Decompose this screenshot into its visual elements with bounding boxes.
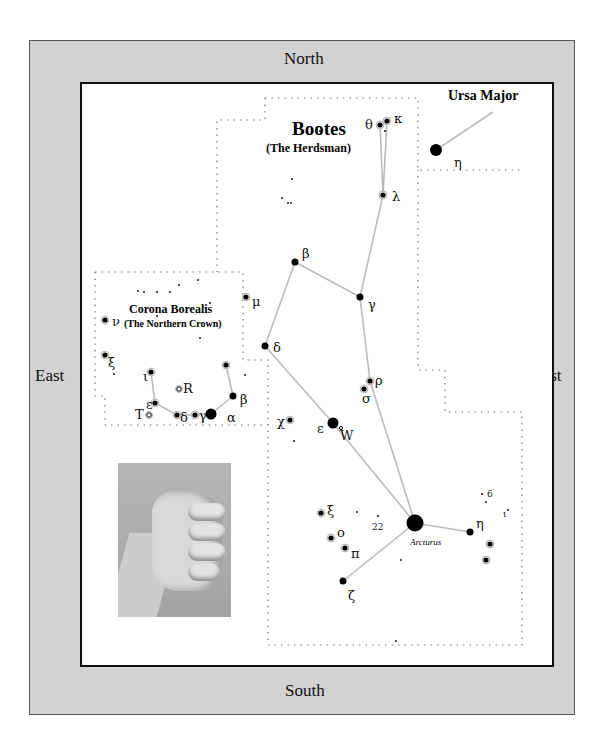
star-label: θ [365,117,373,132]
faint-star [485,501,487,503]
asterism-line [295,262,360,297]
star-label: T [135,407,144,422]
faint-star [281,197,283,199]
star-label: R [183,381,194,396]
star-label: ξ [327,503,334,518]
star-boo-alpha [407,515,424,532]
ursa-major-title: Ursa Major [448,88,518,104]
star-crb-T [147,413,151,417]
star-label: ν [112,314,120,329]
finger-4 [188,563,220,581]
asterism-line [226,365,233,396]
faint-star [143,291,145,293]
star-boo-mu [243,294,248,299]
star-boo-rho [367,378,372,383]
star-label: ζ [348,588,355,603]
star-boo-kappa [384,118,389,123]
star-label: ξ [108,355,115,370]
star-crb-gamma [192,412,197,417]
star-boo-xi [318,510,323,515]
faint-star [293,440,295,442]
star-label: β [302,246,310,261]
star-crb-R [177,387,181,391]
faint-star [197,279,199,281]
star-label: λ [392,189,400,204]
corona-borealis-title: Corona Borealis [129,302,212,317]
constellation-map: θκλβγδμρσεWχηζξoπ226ιηαβγδειRTνξ [0,0,606,749]
faint-star [137,290,139,292]
constellation-boundary [217,98,265,272]
faint-star [384,130,386,132]
star-label: κ [394,111,402,126]
star-label: ι [503,509,507,519]
star-chart: North South East West θκλβγδμρσεWχηζξoπ2… [0,0,606,749]
star-boo-22 [377,515,379,517]
star-label: β [240,392,248,407]
faint-star [244,374,246,376]
star-label: ι [143,369,148,384]
asterism-line [383,121,387,195]
faint-star [113,373,115,375]
asterism-line [436,112,493,150]
star-boo-s1 [487,541,492,546]
star-crb-iota [148,369,153,374]
star-label: μ [252,294,260,309]
star-label: o [337,525,345,540]
faint-star [156,291,158,293]
star-crb-delta [174,412,179,417]
asterism-line [360,195,383,297]
star-crb-theta [223,362,228,367]
star-uma-eta [430,144,442,156]
star-boo-omicron [328,535,333,540]
asterism-line [265,262,295,346]
asterism-line [370,381,415,523]
star-crb-xi [102,352,107,357]
star-boo-delta [262,343,269,350]
star-label: δ [180,410,188,425]
star-boo-beta [292,259,299,266]
star-label: π [351,546,360,561]
asterism-line [265,346,333,423]
star-boo-1 [507,509,509,511]
star-boo-zeta [340,578,347,585]
star-boo-epsilon [328,418,339,429]
star-label: ε [146,397,153,412]
corona-borealis-subtitle: (The Northern Crown) [124,318,222,329]
fist-photo [118,463,231,617]
bootes-title: Bootes [292,118,346,140]
star-boo-lambda [380,192,385,197]
star-label: η [476,516,484,531]
star-label: δ [273,340,281,355]
faint-star [395,640,397,642]
star-label: γ [199,408,207,423]
arcturus-label: Arcturus [410,537,441,547]
faint-star [199,337,201,339]
star-crb-alpha [206,409,217,420]
star-boo-s2 [483,557,488,562]
star-label: σ [362,391,371,406]
star-crb-beta [230,393,237,400]
star-label: ρ [375,373,383,388]
finger-1 [188,503,226,521]
star-label: γ [368,297,376,312]
star-boo-eta [467,529,474,536]
faint-star [169,291,171,293]
asterism-line [380,125,383,195]
bootes-subtitle: (The Herdsman) [266,141,351,156]
star-boo-theta [377,122,382,127]
star-label: α [227,410,236,425]
star-crb-epsilon [152,400,157,405]
faint-star [291,178,293,180]
star-crb-nu [102,317,107,322]
star-label: χ [277,414,285,429]
faint-star [290,202,292,204]
finger-2 [188,523,226,541]
star-label: η [454,155,462,170]
star-label: ε [317,421,324,436]
faint-star [400,559,402,561]
star-boo-gamma [357,294,364,301]
faint-star [356,511,358,513]
faint-star [178,284,180,286]
star-boo-6 [481,493,483,495]
star-label: 6 [487,489,493,499]
